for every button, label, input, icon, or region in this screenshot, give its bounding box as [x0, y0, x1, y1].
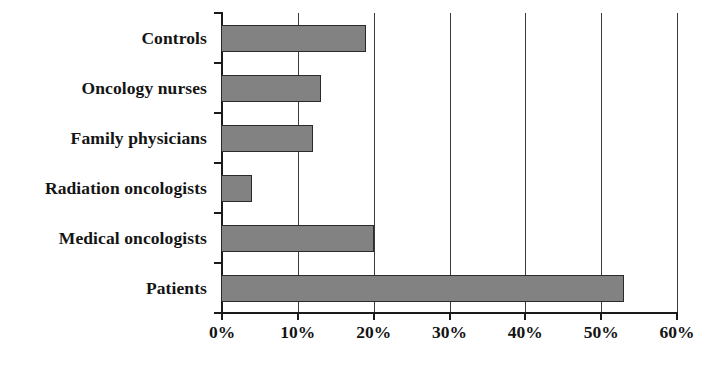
- bar: [221, 25, 366, 52]
- x-axis-tick: [524, 313, 526, 320]
- bar-slot: [222, 113, 677, 163]
- x-axis-label: 30%: [432, 322, 467, 343]
- y-axis-tick: [214, 212, 222, 214]
- x-axis-tick: [676, 313, 678, 320]
- category-axis-labels: Controls Oncology nurses Family physicia…: [0, 13, 214, 313]
- y-axis-tick: [214, 262, 222, 264]
- y-axis-tick: [214, 112, 222, 114]
- bar-chart: Controls Oncology nurses Family physicia…: [0, 0, 714, 371]
- bar: [221, 125, 313, 152]
- x-axis-tick: [221, 313, 223, 320]
- x-axis-label: 0%: [209, 322, 235, 343]
- category-label: Oncology nurses: [0, 63, 214, 113]
- category-label: Radiation oncologists: [0, 163, 214, 213]
- x-axis-label: 10%: [280, 322, 315, 343]
- x-axis-tick: [373, 313, 375, 320]
- bar: [221, 225, 374, 252]
- bar-slot: [222, 13, 677, 63]
- bar-series: [222, 13, 677, 313]
- category-label: Family physicians: [0, 113, 214, 163]
- category-label: Medical oncologists: [0, 213, 214, 263]
- x-axis-label: 50%: [584, 322, 619, 343]
- bar-slot: [222, 213, 677, 263]
- x-axis-tick: [449, 313, 451, 320]
- bar: [221, 175, 252, 202]
- bar-slot: [222, 163, 677, 213]
- x-axis-label: 60%: [660, 322, 695, 343]
- bar-slot: [222, 263, 677, 313]
- y-axis-tick: [214, 12, 222, 14]
- plot-area: [222, 13, 677, 313]
- bar: [221, 75, 321, 102]
- value-axis-labels: 0%10%20%30%40%50%60%: [222, 322, 677, 352]
- y-axis-tick: [214, 162, 222, 164]
- x-axis-tick: [297, 313, 299, 320]
- x-axis-label: 20%: [356, 322, 391, 343]
- x-axis-tick: [600, 313, 602, 320]
- gridline: [677, 13, 678, 313]
- category-label: Controls: [0, 13, 214, 63]
- bar: [221, 275, 624, 302]
- bar-slot: [222, 63, 677, 113]
- category-label: Patients: [0, 263, 214, 313]
- x-axis-label: 40%: [508, 322, 543, 343]
- y-axis-tick: [214, 62, 222, 64]
